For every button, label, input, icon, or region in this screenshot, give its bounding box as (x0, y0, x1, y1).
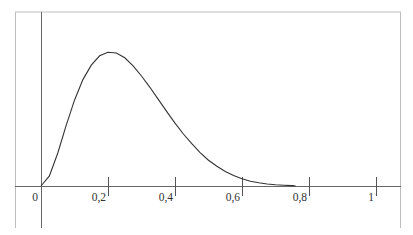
density-chart: 00,20,40,60,81 (0, 0, 413, 235)
x-tick-label: 0,6 (226, 191, 241, 204)
density-curve (41, 52, 296, 186)
x-tick-label: 0,2 (92, 191, 107, 204)
x-tick-label: 0 (32, 191, 38, 203)
x-tick-label: 0,4 (159, 191, 174, 204)
x-axis-ticks: 00,20,40,60,81 (32, 177, 376, 204)
x-tick-label: 0,8 (293, 191, 308, 204)
plot-frame (15, 12, 401, 228)
x-tick-label: 1 (368, 191, 374, 203)
